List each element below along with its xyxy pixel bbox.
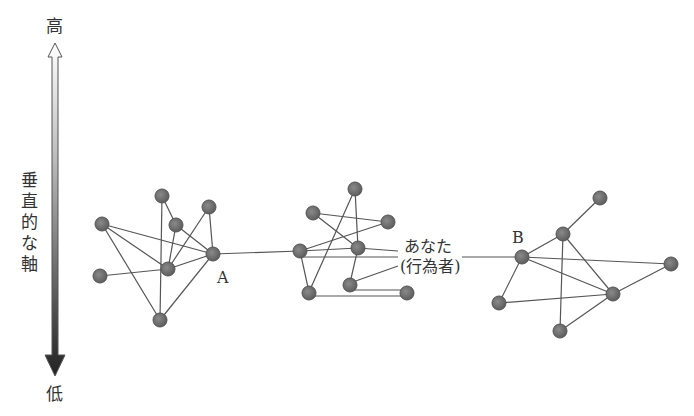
node <box>93 269 107 283</box>
node <box>553 324 567 338</box>
axis-title-char: 直 <box>20 191 38 212</box>
node <box>153 313 167 327</box>
node <box>302 286 316 300</box>
node <box>293 244 307 258</box>
axis-title-char: 軸 <box>20 254 38 275</box>
node <box>202 200 216 214</box>
node <box>348 182 362 196</box>
axis-high-label: 高 <box>46 18 63 35</box>
node-b-label: B <box>512 228 524 247</box>
actor-label-role: (行為者) <box>400 257 460 277</box>
node <box>606 287 620 301</box>
axis-title: 垂 直 的 な 軸 <box>20 170 38 275</box>
actor-label-name: あなた <box>400 237 460 257</box>
node <box>381 215 395 229</box>
node <box>161 262 175 276</box>
node <box>664 257 678 271</box>
network-diagram: 高 低 垂 直 的 な 軸 A B あなた (行為者) <box>0 0 694 416</box>
node <box>155 189 169 203</box>
node-b <box>515 250 529 264</box>
axis-title-char: な <box>20 233 38 254</box>
actor-label: あなた (行為者) <box>398 237 462 277</box>
node <box>95 217 109 231</box>
node-a <box>206 247 220 261</box>
node <box>306 206 320 220</box>
axis-low-label: 低 <box>46 386 63 403</box>
node <box>556 227 570 241</box>
node <box>400 286 414 300</box>
node <box>351 241 365 255</box>
node <box>343 278 357 292</box>
axis-title-char: 垂 <box>20 170 38 191</box>
edges <box>100 189 671 331</box>
node-a-label: A <box>217 268 229 287</box>
node <box>593 191 607 205</box>
vertical-axis-arrow <box>45 43 65 376</box>
node <box>492 296 506 310</box>
axis-title-char: 的 <box>20 212 38 233</box>
node <box>169 218 183 232</box>
